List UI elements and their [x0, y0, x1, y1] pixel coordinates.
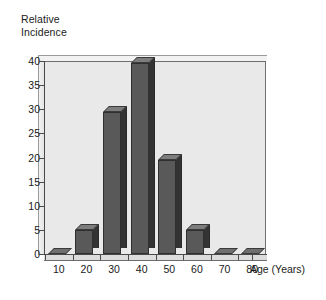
- y-axis-tick-label: 0: [0, 248, 40, 260]
- bar-front-face: [186, 230, 204, 254]
- x-axis-title: Age (Years): [250, 263, 305, 275]
- bar: [75, 224, 93, 254]
- x-axis-tick-mark: [183, 255, 184, 260]
- x-axis-tick-label: 70: [210, 263, 240, 275]
- y-axis-tick-label: 35: [0, 79, 40, 91]
- y-axis-tick-mark: [39, 230, 44, 231]
- y-axis-tick-label: 30: [0, 103, 40, 115]
- x-axis-tick-label: 30: [99, 263, 129, 275]
- x-axis-tick-label: 20: [71, 263, 101, 275]
- y-axis-line: [44, 61, 45, 255]
- y-axis-tick-label: 15: [0, 176, 40, 188]
- y-axis-tick-mark: [39, 158, 44, 159]
- x-axis-tick-mark: [128, 255, 129, 260]
- y-axis-tick-label: 25: [0, 127, 40, 139]
- x-axis-tick-mark: [156, 255, 157, 260]
- x-axis-tick-label: 50: [154, 263, 184, 275]
- y-axis-tick-mark: [39, 254, 44, 255]
- x-axis-tick-label: 40: [127, 263, 157, 275]
- bar: [186, 224, 204, 254]
- bar-chart: RelativeIncidence 0510152025303540 10203…: [0, 0, 326, 300]
- x-axis-tick-label: 10: [44, 263, 74, 275]
- bar-front-face: [103, 112, 121, 254]
- bar: [131, 57, 149, 254]
- bar-front-face: [75, 230, 93, 254]
- x-axis-tick-label: 60: [182, 263, 212, 275]
- y-axis-tick-mark: [39, 109, 44, 110]
- y-axis-tick-mark: [39, 206, 44, 207]
- y-axis-tick-label: 20: [0, 152, 40, 164]
- bar-front-face: [158, 160, 176, 254]
- x-axis-tick-mark: [73, 255, 74, 260]
- y-axis-tick-mark: [39, 182, 44, 183]
- bar-series: [0, 0, 326, 300]
- x-axis-tick-mark: [45, 255, 46, 260]
- y-axis-tick-mark: [39, 133, 44, 134]
- y-axis-tick-label: 5: [0, 224, 40, 236]
- bar-front-face: [131, 63, 149, 254]
- y-axis-ticks: 0510152025303540: [0, 0, 40, 300]
- bar-side-face: [176, 154, 182, 248]
- x-axis-tick-mark: [211, 255, 212, 260]
- y-axis-tick-label: 40: [0, 55, 40, 67]
- y-axis-tick-mark: [39, 85, 44, 86]
- x-axis-tick-mark: [100, 255, 101, 260]
- x-axis-tick-mark: [252, 255, 253, 260]
- x-axis-tick-mark: [238, 255, 239, 260]
- bar-side-face: [149, 57, 155, 248]
- bar-side-face: [121, 106, 127, 248]
- y-axis-tick-mark: [39, 61, 44, 62]
- y-axis-tick-label: 10: [0, 200, 40, 212]
- bar: [103, 106, 121, 254]
- bar: [158, 154, 176, 254]
